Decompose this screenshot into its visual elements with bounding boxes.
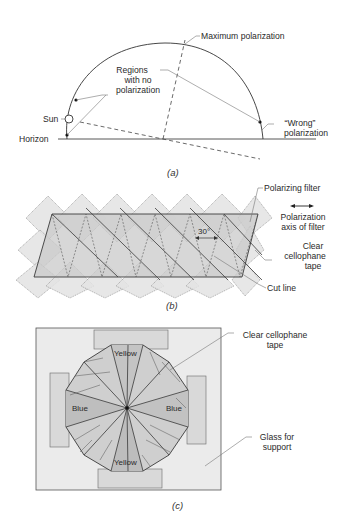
label-blue-left: Blue	[72, 404, 88, 413]
label-tape-c-l1: Clear cellophane	[234, 330, 316, 340]
label-tape-c-l2: tape	[234, 340, 316, 350]
label-glass-l2: support	[252, 442, 302, 452]
label-glass-l1: Glass for	[252, 432, 302, 442]
label-yellow-bottom: Yellow	[114, 458, 137, 467]
center-pin	[125, 406, 129, 410]
label-clear-cellophane-c: Clear cellophane tape	[234, 330, 316, 350]
caption-c: (c)	[172, 500, 183, 511]
label-yellow-top: Yellow	[114, 349, 137, 358]
label-glass-for-support: Glass for support	[252, 432, 302, 452]
label-blue-right: Blue	[166, 404, 182, 413]
